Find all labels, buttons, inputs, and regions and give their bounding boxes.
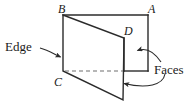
vertex-label-a: A (148, 3, 155, 15)
edge-callout-arrow (40, 48, 61, 57)
front-face-parallelogram (63, 15, 124, 100)
front-face-outline (63, 15, 124, 100)
faces-callout-arrow-upper (138, 49, 162, 62)
callout-label-edge: Edge (5, 40, 32, 53)
callout-label-faces: Faces (154, 63, 184, 76)
back-rectangle-outline (63, 15, 148, 71)
vertex-label-c: C (54, 76, 62, 88)
vertex-label-d: D (124, 25, 133, 37)
vertex-label-b: B (58, 3, 65, 15)
geometry-figure: B A D C Edge Faces (0, 0, 194, 107)
